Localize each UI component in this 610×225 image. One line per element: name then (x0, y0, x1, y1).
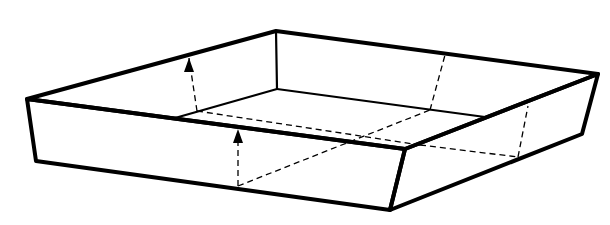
dashed-fold-line (518, 106, 528, 157)
back-corner-edge (276, 31, 277, 89)
inner-floor-edge (277, 89, 485, 117)
inner-floor-edge (175, 89, 277, 118)
dashed-fold-line (430, 55, 445, 110)
dashed-fold-line (197, 111, 420, 145)
front-flap-arrow-icon (233, 129, 243, 143)
dashed-fold-line (420, 145, 518, 157)
tray-diagram (0, 0, 610, 225)
tray-drawing (0, 0, 610, 225)
tray-rim (27, 31, 598, 149)
front-left-wall (27, 99, 405, 210)
back-flap-arrow-icon (184, 58, 194, 72)
tray-faces (27, 31, 598, 210)
